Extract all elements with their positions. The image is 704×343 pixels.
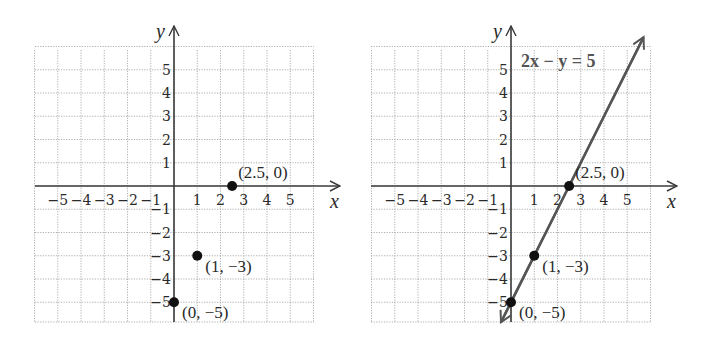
x-tick-label: 3 [576, 192, 585, 208]
x-tick-label: −5 [384, 192, 405, 208]
data-point [192, 251, 202, 261]
y-tick-label: −5 [487, 294, 508, 310]
y-tick-label: 3 [162, 108, 171, 124]
x-axis-label: x [666, 190, 676, 212]
y-tick-label: −5 [150, 294, 171, 310]
x-tick-label: 2 [216, 192, 225, 208]
y-tick-label: −2 [487, 225, 508, 241]
y-axis-label: y [154, 20, 165, 43]
y-tick-label: 2 [499, 132, 508, 148]
x-tick-label: −2 [117, 192, 138, 208]
point-label: (2.5, 0) [575, 163, 625, 182]
data-point [169, 297, 179, 307]
y-tick-label: −1 [487, 201, 508, 217]
data-point [564, 181, 574, 191]
x-tick-label: −3 [94, 192, 115, 208]
y-tick-label: 3 [499, 108, 508, 124]
point-label: (0, −5) [519, 303, 565, 322]
x-tick-label: −3 [431, 192, 452, 208]
line-equation-label: 2x − y = 5 [521, 51, 596, 71]
x-tick-label: 1 [530, 192, 539, 208]
data-point [506, 297, 516, 307]
y-tick-label: −4 [487, 271, 508, 287]
coordinate-plane-line: xy−5−4−3−2−11234554321−1−2−3−4−52x − y =… [371, 20, 677, 322]
point-label: (1, −3) [205, 257, 251, 276]
y-tick-label: −1 [150, 201, 171, 217]
x-tick-label: −2 [454, 192, 475, 208]
point-label: (1, −3) [542, 257, 588, 276]
point-label: (0, −5) [182, 303, 228, 322]
y-axis-label: y [491, 20, 502, 43]
y-tick-label: −4 [150, 271, 171, 287]
x-tick-label: 5 [623, 192, 632, 208]
x-tick-label: 5 [286, 192, 295, 208]
x-tick-label: −5 [47, 192, 68, 208]
x-tick-label: 1 [193, 192, 202, 208]
y-tick-label: 4 [162, 85, 171, 101]
x-tick-label: 4 [600, 192, 609, 208]
y-tick-label: −3 [150, 248, 171, 264]
y-tick-label: 5 [162, 62, 171, 78]
x-tick-label: −4 [408, 192, 429, 208]
y-tick-label: 1 [162, 155, 171, 171]
y-tick-label: 1 [499, 155, 508, 171]
x-tick-label: 4 [263, 192, 272, 208]
y-tick-label: 5 [499, 62, 508, 78]
data-point [227, 181, 237, 191]
data-point [529, 251, 539, 261]
y-tick-label: 2 [162, 132, 171, 148]
y-tick-label: −3 [487, 248, 508, 264]
point-label: (2.5, 0) [238, 163, 288, 182]
x-tick-label: −4 [71, 192, 92, 208]
x-tick-label: 3 [239, 192, 248, 208]
y-tick-label: −2 [150, 225, 171, 241]
coordinate-plane-points: xy−5−4−3−2−11234554321−1−2−3−4−5(2.5, 0)… [35, 20, 341, 322]
y-tick-label: 4 [499, 85, 508, 101]
x-axis-label: x [329, 190, 339, 212]
figure: xy−5−4−3−2−11234554321−1−2−3−4−5(2.5, 0)… [0, 0, 704, 343]
